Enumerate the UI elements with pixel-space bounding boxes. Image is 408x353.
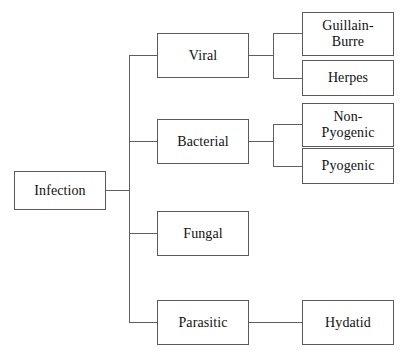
edge-viral-to-herpes [273, 78, 303, 79]
node-hydatid-label: Hydatid [323, 315, 373, 331]
node-fungal: Fungal [157, 211, 249, 256]
edge-viral-bracket [273, 33, 274, 79]
edge-bacterial-bracket [273, 124, 274, 167]
edge-trunk-to-viral [129, 55, 158, 56]
node-infection: Infection [14, 171, 106, 210]
node-parasitic-label: Parasitic [176, 315, 229, 331]
edge-infection-to-trunk [106, 190, 130, 191]
node-guillain-burre-label: Guillain- Burre [320, 18, 375, 49]
node-non-pyogenic-label: Non- Pyogenic [320, 109, 377, 140]
node-pyogenic: Pyogenic [302, 148, 394, 184]
node-bacterial: Bacterial [157, 119, 249, 164]
edge-trunk-to-bacterial [129, 141, 158, 142]
edge-parasitic-to-hydatid [249, 322, 303, 323]
node-hydatid: Hydatid [302, 300, 394, 345]
edge-bacterial-to-pyogenic [273, 166, 303, 167]
infection-classification-diagram: Infection Viral Bacterial Fungal Parasit… [0, 0, 408, 353]
node-herpes-label: Herpes [326, 70, 370, 86]
node-viral-label: Viral [187, 48, 219, 64]
edge-viral-outlet [249, 55, 274, 56]
node-pyogenic-label: Pyogenic [320, 158, 377, 174]
edge-bacterial-outlet [249, 141, 274, 142]
node-guillain-burre: Guillain- Burre [302, 12, 394, 56]
node-infection-label: Infection [32, 183, 87, 199]
node-parasitic: Parasitic [157, 300, 249, 345]
node-herpes: Herpes [302, 60, 394, 96]
edge-trunk-to-fungal [129, 233, 158, 234]
node-fungal-label: Fungal [181, 226, 225, 242]
node-bacterial-label: Bacterial [175, 134, 230, 150]
edge-viral-to-guillain-burre [273, 33, 303, 34]
edge-main-vertical-trunk [129, 55, 130, 323]
node-viral: Viral [157, 33, 249, 78]
node-non-pyogenic: Non- Pyogenic [302, 103, 394, 147]
edge-bacterial-to-non-pyogenic [273, 124, 303, 125]
edge-trunk-to-parasitic [129, 322, 158, 323]
